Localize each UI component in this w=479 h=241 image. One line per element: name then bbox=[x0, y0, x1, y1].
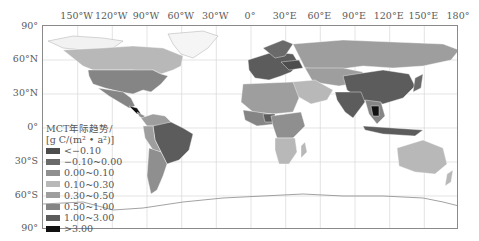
legend-item: 0.00~0.10 bbox=[46, 167, 122, 178]
x-tick-label: 60°W bbox=[167, 11, 194, 21]
y-tick-label: 30°S bbox=[15, 156, 38, 166]
legend-label: −0.10~0.00 bbox=[64, 156, 122, 167]
legend-item: 1.00~3.00 bbox=[46, 212, 122, 223]
legend-swatch bbox=[46, 170, 60, 176]
legend-label: 0.10~0.30 bbox=[64, 179, 114, 190]
legend-label: <−0.10 bbox=[64, 145, 101, 156]
x-tick-label: 120°W bbox=[95, 11, 128, 21]
y-tick-label: 90° bbox=[21, 21, 38, 31]
map-legend: MCT年际趋势/ [g C/(m² • a²)] <−0.10 −0.10~0.… bbox=[46, 123, 122, 235]
x-tick-label: 30°E bbox=[273, 11, 297, 21]
legend-label: 0.30~0.50 bbox=[64, 190, 114, 201]
y-tick-label: 60°N bbox=[13, 54, 38, 64]
legend-swatch bbox=[46, 148, 60, 154]
x-tick-label: 0° bbox=[245, 11, 256, 21]
legend-swatch bbox=[46, 204, 60, 210]
legend-swatch bbox=[46, 215, 60, 221]
legend-swatch bbox=[46, 159, 60, 165]
legend-label: 0.00~0.10 bbox=[64, 167, 114, 178]
y-tick-label: 90° bbox=[21, 223, 38, 233]
y-tick-label: 30°N bbox=[13, 88, 38, 98]
legend-item: >3.00 bbox=[46, 223, 122, 234]
x-tick-label: 90°W bbox=[133, 11, 160, 21]
legend-swatch bbox=[46, 192, 60, 198]
legend-title: MCT年际趋势/ bbox=[46, 123, 122, 134]
legend-item: 0.10~0.30 bbox=[46, 179, 122, 190]
legend-item: <−0.10 bbox=[46, 145, 122, 156]
y-tick-label: 0° bbox=[27, 122, 38, 132]
legend-item: −0.10~0.00 bbox=[46, 156, 122, 167]
x-tick-label: 120°E bbox=[374, 11, 404, 21]
legend-label: 1.00~3.00 bbox=[64, 212, 114, 223]
x-tick-label: 150°W bbox=[60, 11, 93, 21]
legend-label: 0.50~1.00 bbox=[64, 201, 114, 212]
x-tick-label: 180° bbox=[447, 11, 470, 21]
x-tick-label: 30°W bbox=[202, 11, 229, 21]
legend-item: 0.30~0.50 bbox=[46, 190, 122, 201]
x-tick-label: 150°E bbox=[408, 11, 438, 21]
y-tick-label: 60°S bbox=[15, 190, 38, 200]
x-tick-label: 90°E bbox=[342, 11, 366, 21]
legend-unit: [g C/(m² • a²)] bbox=[46, 134, 122, 145]
legend-item: 0.50~1.00 bbox=[46, 201, 122, 212]
legend-swatch bbox=[46, 226, 60, 232]
legend-swatch bbox=[46, 181, 60, 187]
x-tick-label: 60°E bbox=[307, 11, 331, 21]
legend-label: >3.00 bbox=[64, 223, 93, 234]
